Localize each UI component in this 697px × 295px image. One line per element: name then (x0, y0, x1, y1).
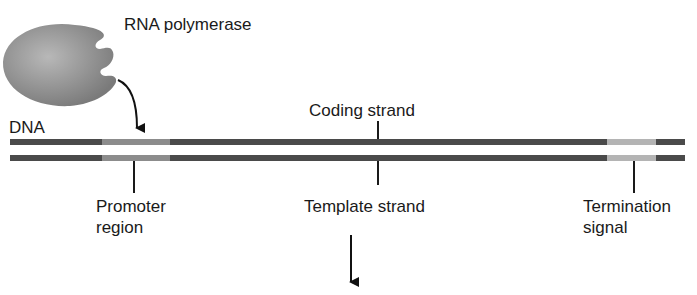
binding-arrow-icon (118, 80, 137, 128)
rna-polymerase-label: RNA polymerase (124, 15, 252, 35)
template-strand (10, 155, 685, 161)
strand-segment (170, 155, 607, 161)
termination-leader (633, 161, 635, 193)
termination-segment (607, 155, 656, 161)
coding-strand (10, 139, 685, 145)
strand-segment (656, 139, 685, 145)
strand-segment (10, 155, 102, 161)
strand-segment (656, 155, 685, 161)
promoter-label: Promoter (96, 197, 166, 217)
coding-strand-label: Coding strand (309, 101, 415, 121)
promoter-leader (133, 161, 135, 193)
strand-segment (10, 139, 102, 145)
promoter-segment (102, 139, 170, 145)
dna-label: DNA (9, 118, 45, 138)
promoter-label-line2: region (96, 218, 143, 238)
strand-segment (170, 139, 607, 145)
template-strand-label: Template strand (304, 197, 425, 217)
termination-label-line2: signal (583, 218, 627, 238)
diagram-graphics (0, 0, 697, 295)
promoter-segment (102, 155, 170, 161)
termination-segment (607, 139, 656, 145)
rna-polymerase-icon (3, 24, 116, 106)
coding-strand-leader (377, 121, 379, 139)
template-strand-leader (377, 161, 379, 185)
termination-label: Termination (583, 197, 671, 217)
